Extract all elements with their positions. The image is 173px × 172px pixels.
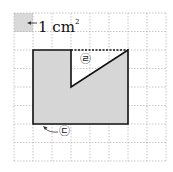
marker-e-text: ㉣ bbox=[80, 53, 91, 66]
marker-e-label: ㉣ bbox=[80, 54, 91, 66]
unit-label-text: 1 cm bbox=[38, 18, 75, 36]
unit-exponent: 2 bbox=[75, 18, 79, 26]
leader-arrow-icon bbox=[43, 126, 58, 132]
grid-figure bbox=[0, 0, 173, 172]
marker-c-label: ㉢ bbox=[59, 126, 70, 138]
marker-c-text: ㉢ bbox=[59, 125, 70, 138]
unit-label: 1 cm2 bbox=[38, 13, 79, 36]
